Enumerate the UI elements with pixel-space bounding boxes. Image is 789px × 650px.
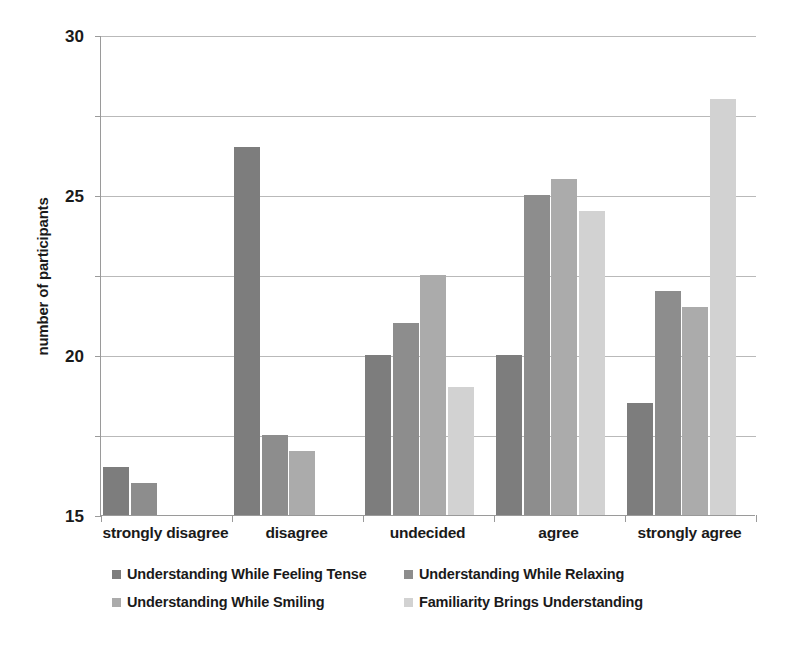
bar	[448, 387, 474, 515]
x-tick-mark	[625, 515, 626, 522]
y-tick-label: 15	[65, 507, 84, 527]
x-axis-label-disagree: disagree	[231, 524, 362, 542]
x-tick-mark	[494, 515, 495, 522]
bar	[365, 355, 391, 515]
x-axis-label-agree: agree	[493, 524, 624, 542]
legend-label: Familiarity Brings Understanding	[419, 594, 643, 610]
bar	[524, 195, 550, 515]
bar	[131, 483, 157, 515]
x-tick-mark	[101, 515, 102, 522]
legend-item[interactable]: Understanding While Smiling	[112, 594, 404, 610]
bar-group	[232, 36, 363, 515]
legend-swatch-icon	[404, 570, 413, 579]
bar	[234, 147, 260, 515]
x-axis-label-strongly-agree: strongly agree	[624, 524, 755, 542]
bar	[103, 467, 129, 515]
bar-group	[494, 36, 625, 515]
legend-swatch-icon	[112, 598, 121, 607]
bar	[551, 179, 577, 515]
legend-row: Understanding While Feeling TenseUnderst…	[112, 560, 712, 588]
bar-group	[363, 36, 494, 515]
legend-label: Understanding While Smiling	[127, 594, 324, 610]
plot-area: 051015202530	[100, 36, 755, 516]
y-axis-title: number of participants	[34, 157, 51, 397]
x-axis-label-strongly-disagree: strongly disagree	[100, 524, 231, 542]
bar	[393, 323, 419, 515]
bar-group	[625, 36, 756, 515]
legend-item[interactable]: Familiarity Brings Understanding	[404, 594, 704, 610]
legend-swatch-icon	[112, 570, 121, 579]
legend-item[interactable]: Understanding While Feeling Tense	[112, 566, 404, 582]
bar	[289, 451, 315, 515]
bar	[262, 435, 288, 515]
bar	[710, 99, 736, 515]
legend-row: Understanding While SmilingFamiliarity B…	[112, 588, 712, 616]
x-axis-label-undecided: undecided	[362, 524, 493, 542]
x-tick-mark	[756, 515, 757, 522]
legend-item[interactable]: Understanding While Relaxing	[404, 566, 704, 582]
bar	[579, 211, 605, 515]
bar	[655, 291, 681, 515]
y-tick-label: 25	[65, 187, 84, 207]
legend-label: Understanding While Feeling Tense	[127, 566, 367, 582]
bar	[682, 307, 708, 515]
y-tick-label: 20	[65, 347, 84, 367]
legend-swatch-icon	[404, 598, 413, 607]
chart-legend: Understanding While Feeling TenseUnderst…	[112, 560, 712, 616]
bar-chart: number of participants 051015202530 stro…	[0, 0, 789, 650]
bar	[496, 355, 522, 515]
bar	[420, 275, 446, 515]
y-tick-label: 30	[65, 27, 84, 47]
x-tick-mark	[363, 515, 364, 522]
x-tick-mark	[232, 515, 233, 522]
bar	[627, 403, 653, 515]
bar-group	[101, 36, 232, 515]
legend-label: Understanding While Relaxing	[419, 566, 624, 582]
